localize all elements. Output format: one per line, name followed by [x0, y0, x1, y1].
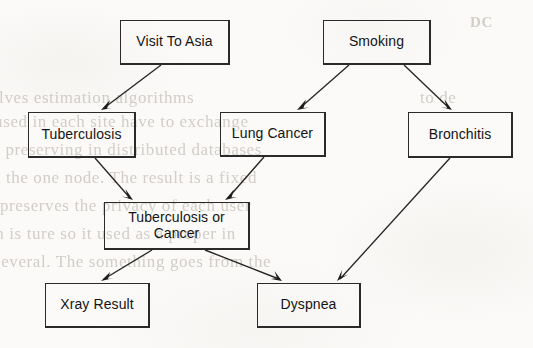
node-label: Tuberculosis — [39, 127, 123, 143]
node-smoking[interactable]: Smoking — [323, 20, 431, 65]
edge-tbcancer-to-dyspnea — [205, 250, 282, 281]
node-label: Tuberculosis or Cancer — [105, 210, 248, 241]
edge-bronchitis-to-dyspnea — [337, 158, 450, 281]
edge-lung-cancer-to-tbcancer — [225, 157, 264, 200]
ghost-text-line: g the one node. The result is a fixed — [0, 168, 257, 188]
diagram-page: DC olves estimation algorithms to de s u… — [0, 0, 533, 348]
node-label: Smoking — [347, 34, 406, 50]
ghost-text-line: to de — [420, 88, 457, 108]
edge-smoking-to-lung-cancer — [297, 65, 349, 110]
node-bronchitis[interactable]: Bronchitis — [408, 112, 513, 158]
node-tuberculosis-or-cancer[interactable]: Tuberculosis or Cancer — [104, 202, 250, 250]
node-label: Xray Result — [58, 297, 135, 313]
edge-visit-to-tuberculosis — [101, 65, 161, 110]
node-label: Dyspnea — [279, 297, 339, 313]
ghost-text-line: several. The something goes from the — [0, 252, 271, 272]
node-tuberculosis[interactable]: Tuberculosis — [28, 112, 136, 158]
node-visit-to-asia[interactable]: Visit To Asia — [120, 20, 230, 65]
node-xray-result[interactable]: Xray Result — [45, 283, 150, 328]
node-label: Lung Cancer — [230, 126, 315, 142]
edge-smoking-to-bronchitis — [404, 65, 452, 110]
node-lung-cancer[interactable]: Lung Cancer — [220, 112, 326, 157]
node-label: Bronchitis — [427, 127, 493, 143]
node-label: Visit To Asia — [134, 34, 214, 50]
edge-tuberculosis-to-tbcancer — [95, 158, 133, 200]
ghost-text-line: olves estimation algorithms — [0, 88, 194, 108]
ghost-text-line: DC — [470, 14, 493, 31]
edge-tbcancer-to-xray — [101, 250, 152, 281]
node-dyspnea[interactable]: Dyspnea — [257, 283, 361, 328]
